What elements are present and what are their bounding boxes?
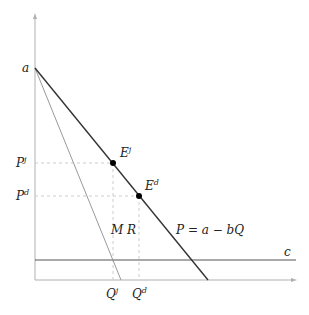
label-a: a — [22, 61, 29, 75]
label-mr: M R — [110, 223, 136, 237]
label-demand: P = a − bQ — [175, 223, 244, 237]
label-pj: Pj — [15, 155, 27, 170]
label-ej: Ej — [119, 145, 132, 160]
label-qj: Qj — [106, 286, 119, 301]
diagram-canvas: a Pj Pd Ej Ed M R P = a − bQ c Qj Qd — [0, 0, 309, 315]
equilibrium-disjoint-point — [136, 193, 142, 199]
label-cost: c — [284, 245, 291, 259]
label-pd: Pd — [15, 188, 29, 203]
x-axis-arrow-icon — [291, 278, 297, 282]
equilibrium-joint-point — [110, 160, 116, 166]
marginal-revenue-line — [35, 68, 121, 280]
label-ed: Ed — [144, 178, 159, 193]
demand-line — [35, 68, 208, 280]
label-qd: Qd — [132, 286, 147, 301]
y-axis-arrow-icon — [33, 13, 37, 19]
